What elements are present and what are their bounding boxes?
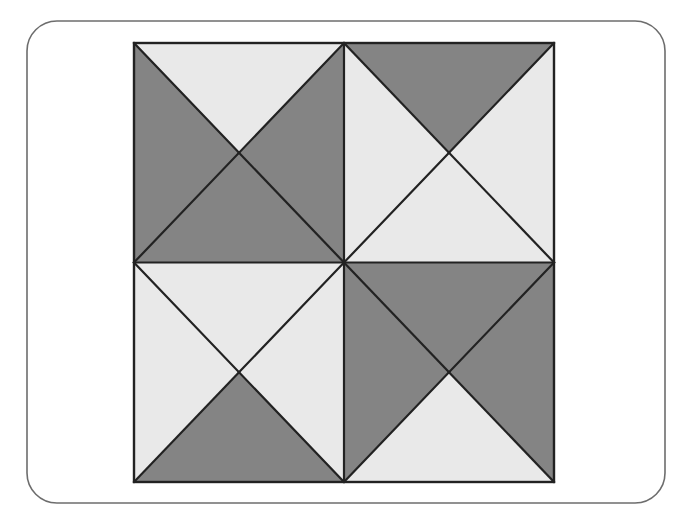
geometric-figure xyxy=(0,0,678,523)
canvas-root xyxy=(0,0,678,523)
triangle-tiling-outlines xyxy=(134,43,554,482)
